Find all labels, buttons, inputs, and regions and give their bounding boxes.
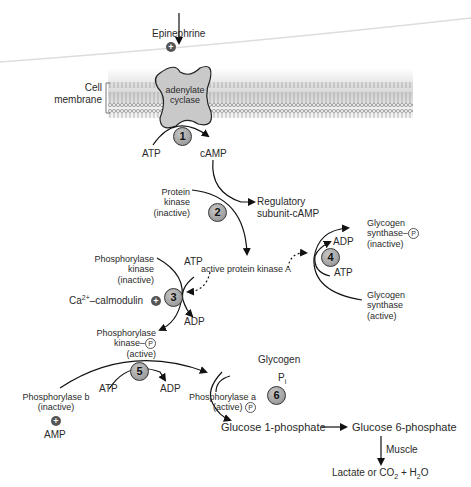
step-2-badge: 2 (208, 203, 227, 222)
adp-label-4: ADP (333, 236, 354, 248)
protein-kinase-inactive-label: Proteinkinase(inactive) (140, 187, 190, 218)
phosphate-icon: P (145, 338, 156, 349)
adenylate-cyclase-label: adenylatecyclase (160, 85, 210, 106)
pi-label: Pi (278, 372, 286, 386)
glycogen-synthase-p-label: Glycogensynthase–P(inactive) (367, 218, 419, 250)
adp-label-5: ADP (160, 383, 181, 395)
plus-stimulator-icon: + (151, 296, 161, 306)
adp-label-3: ADP (184, 316, 205, 328)
step-4-badge: 4 (321, 248, 340, 267)
phosphate-icon: P (408, 228, 419, 239)
glucose-1-phosphate-label: Glucose 1-phosphate (221, 421, 326, 434)
camp-label: cAMP (200, 148, 227, 160)
phosphorylase-kinase-inactive-label: Phosphorylasekinase(inactive) (80, 254, 154, 285)
cell-membrane-label: Cellmembrane (50, 82, 102, 105)
phosphorylase-a-label: Phosphorylase a(active) P (182, 392, 256, 413)
calcium-calmodulin-label: Ca2+–calmodulin (69, 294, 143, 307)
phosphate-icon: P (245, 402, 256, 413)
regulatory-subunit-label: Regulatorysubunit-cAMP (257, 196, 319, 219)
cell-membrane (106, 68, 413, 118)
phosphorylase-b-label: Phosphorylase b(inactive) (18, 392, 94, 413)
step-3-badge: 3 (164, 288, 183, 307)
atp-label-4: ATP (334, 267, 353, 279)
lactate-co2-h2o-label: Lactate or CO2 + H2O (332, 467, 428, 481)
step-6-badge: 6 (267, 386, 286, 405)
muscle-label: Muscle (386, 444, 418, 456)
plus-stimulator-icon: + (166, 42, 176, 52)
plus-stimulator-icon: + (51, 416, 61, 426)
step-1-badge: 1 (173, 127, 192, 146)
epinephrine-label: Epinephrine (152, 28, 205, 40)
atp-label-1: ATP (142, 148, 161, 160)
atp-label-5: ATP (99, 383, 118, 395)
step-5-badge: 5 (130, 362, 149, 381)
glycogen-label: Glycogen (258, 354, 300, 366)
glucose-6-phosphate-label: Glucose 6-phosphate (352, 421, 457, 434)
phosphorylase-kinase-active-label: Phosphorylasekinase–P(active) (80, 328, 156, 360)
active-protein-kinase-a-label: active protein kinase A (201, 264, 291, 274)
atp-label-3: ATP (184, 256, 203, 268)
glycogen-synthase-active-label: Glycogensynthase(active) (367, 290, 405, 321)
page-edge-line (0, 18, 471, 62)
amp-label: AMP (44, 429, 66, 441)
